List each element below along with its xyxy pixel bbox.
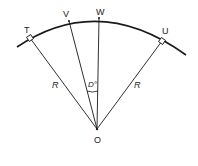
curve-diagram: T V W U O R R D° bbox=[0, 0, 198, 166]
label-O: O bbox=[94, 135, 101, 145]
label-radius-right: R bbox=[134, 80, 141, 90]
radius-line-OW bbox=[97, 18, 99, 129]
label-V: V bbox=[63, 9, 69, 19]
label-T: T bbox=[24, 25, 30, 35]
point-marker-V bbox=[68, 20, 70, 22]
label-radius-left: R bbox=[52, 80, 59, 90]
label-W: W bbox=[96, 7, 105, 17]
label-U: U bbox=[162, 26, 169, 36]
angle-arc-D bbox=[87, 91, 98, 92]
radius-line-OU bbox=[97, 41, 162, 129]
center-point-O bbox=[96, 128, 98, 130]
point-marker-W bbox=[98, 17, 100, 19]
label-angle-D: D° bbox=[88, 80, 98, 89]
radius-line-OT bbox=[30, 38, 97, 129]
radius-line-OV bbox=[69, 21, 97, 129]
